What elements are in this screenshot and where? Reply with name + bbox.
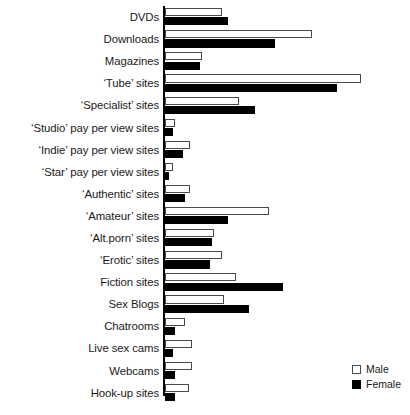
bar-male bbox=[165, 119, 175, 127]
bar-female bbox=[165, 84, 337, 92]
bar-group bbox=[165, 249, 410, 271]
bar-female bbox=[165, 194, 185, 202]
category-row: Fiction sites bbox=[0, 271, 410, 293]
legend-label-female: Female bbox=[366, 379, 401, 390]
bar-group bbox=[165, 315, 410, 337]
bar-male bbox=[165, 273, 236, 281]
category-label: ‘Tube’ sites bbox=[103, 77, 159, 89]
category-label: ‘Star’ pay per view sites bbox=[42, 166, 159, 178]
bar-group bbox=[165, 293, 410, 315]
bar-male bbox=[165, 384, 189, 392]
bar-group bbox=[165, 50, 410, 72]
bar-male bbox=[165, 318, 185, 326]
category-label: ‘Amateur’ sites bbox=[86, 210, 159, 222]
bar-group bbox=[165, 205, 410, 227]
category-label: ‘Erotic’ sites bbox=[100, 254, 159, 266]
bar-female bbox=[165, 62, 200, 70]
bar-female bbox=[165, 349, 173, 357]
bar-group bbox=[165, 161, 410, 183]
category-row: ‘Amateur’ sites bbox=[0, 205, 410, 227]
category-row: ‘Tube’ sites bbox=[0, 72, 410, 94]
bar-male bbox=[165, 8, 222, 16]
bar-male bbox=[165, 362, 192, 370]
category-row: ‘Alt.porn’ sites bbox=[0, 227, 410, 249]
category-label: Live sex cams bbox=[88, 342, 159, 354]
bar-group bbox=[165, 337, 410, 359]
category-row: Chatrooms bbox=[0, 315, 410, 337]
bar-female bbox=[165, 39, 275, 47]
bar-group bbox=[165, 72, 410, 94]
bar-female bbox=[165, 172, 169, 180]
bar-female bbox=[165, 371, 175, 379]
plot-area: DVDsDownloadsMagazines‘Tube’ sites‘Speci… bbox=[0, 0, 410, 400]
category-row: ‘Erotic’ sites bbox=[0, 249, 410, 271]
bar-female bbox=[165, 327, 175, 335]
category-label: ‘Alt.porn’ sites bbox=[90, 232, 159, 244]
bar-female bbox=[165, 238, 212, 246]
bar-chart: DVDsDownloadsMagazines‘Tube’ sites‘Speci… bbox=[0, 0, 410, 415]
cropped-caption-strip bbox=[0, 405, 410, 415]
category-label: DVDs bbox=[130, 11, 159, 23]
category-row: Webcams bbox=[0, 360, 410, 382]
bar-female bbox=[165, 106, 255, 114]
legend-item-female: Female bbox=[352, 377, 410, 392]
bar-group bbox=[165, 227, 410, 249]
legend-label-male: Male bbox=[366, 364, 389, 375]
category-label: Fiction sites bbox=[100, 276, 159, 288]
category-row: ‘Star’ pay per view sites bbox=[0, 161, 410, 183]
category-row: ‘Specialist’ sites bbox=[0, 94, 410, 116]
category-row: Sex Blogs bbox=[0, 293, 410, 315]
bar-female bbox=[165, 216, 228, 224]
bar-male bbox=[165, 295, 224, 303]
bar-male bbox=[165, 340, 192, 348]
bar-female bbox=[165, 393, 175, 401]
bar-female bbox=[165, 17, 228, 25]
category-label: ‘Studio’ pay per view sites bbox=[31, 122, 159, 134]
bar-male bbox=[165, 97, 239, 105]
bar-female bbox=[165, 283, 283, 291]
bar-female bbox=[165, 150, 183, 158]
category-label: Sex Blogs bbox=[109, 298, 159, 310]
category-row: ‘Indie’ pay per view sites bbox=[0, 139, 410, 161]
bar-male bbox=[165, 163, 173, 171]
bar-male bbox=[165, 185, 190, 193]
bar-male bbox=[165, 74, 361, 82]
bar-female bbox=[165, 305, 249, 313]
bar-male bbox=[165, 30, 312, 38]
bar-group bbox=[165, 94, 410, 116]
category-row: Downloads bbox=[0, 28, 410, 50]
category-label: Chatrooms bbox=[104, 320, 159, 332]
category-row: Live sex cams bbox=[0, 337, 410, 359]
category-row: ‘Authentic’ sites bbox=[0, 183, 410, 205]
category-row: Hook-up sites bbox=[0, 382, 410, 404]
category-row: DVDs bbox=[0, 6, 410, 28]
bar-male bbox=[165, 251, 222, 259]
bar-male bbox=[165, 141, 190, 149]
bar-male bbox=[165, 207, 269, 215]
bar-female bbox=[165, 128, 173, 136]
chart-legend: Male Female bbox=[352, 362, 410, 392]
category-label: ‘Authentic’ sites bbox=[82, 188, 159, 200]
category-label: ‘Specialist’ sites bbox=[81, 99, 159, 111]
category-label: Downloads bbox=[104, 33, 159, 45]
legend-item-male: Male bbox=[352, 362, 410, 377]
bar-group bbox=[165, 28, 410, 50]
category-label: Webcams bbox=[109, 365, 159, 377]
bar-group bbox=[165, 139, 410, 161]
category-label: Magazines bbox=[105, 55, 159, 67]
open-square-swatch-icon bbox=[352, 365, 361, 374]
bar-female bbox=[165, 260, 210, 268]
bar-group bbox=[165, 183, 410, 205]
category-rows: DVDsDownloadsMagazines‘Tube’ sites‘Speci… bbox=[0, 6, 410, 404]
bar-group bbox=[165, 116, 410, 138]
bar-group bbox=[165, 271, 410, 293]
bar-group bbox=[165, 6, 410, 28]
category-row: Magazines bbox=[0, 50, 410, 72]
category-row: ‘Studio’ pay per view sites bbox=[0, 116, 410, 138]
bar-male bbox=[165, 229, 214, 237]
category-label: ‘Indie’ pay per view sites bbox=[39, 144, 159, 156]
filled-square-swatch-icon bbox=[352, 380, 361, 389]
category-label: Hook-up sites bbox=[91, 387, 159, 399]
bar-male bbox=[165, 52, 202, 60]
